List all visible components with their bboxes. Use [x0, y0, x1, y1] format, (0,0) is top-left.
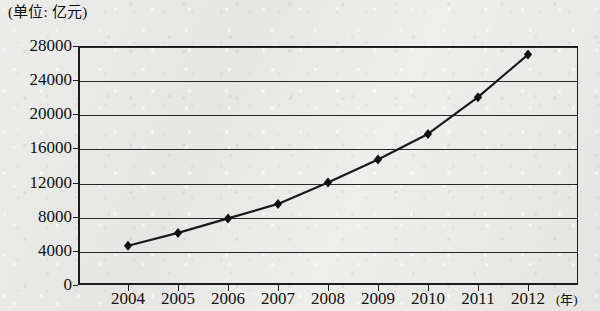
plot-area: [78, 46, 578, 285]
gridline: [80, 81, 577, 82]
y-tick-mark: [73, 148, 78, 149]
gridline: [80, 149, 577, 150]
gridline: [80, 218, 577, 219]
x-axis-unit-label: (年): [556, 292, 578, 308]
y-tick-label: 12000: [0, 174, 72, 191]
y-tick-mark: [73, 183, 78, 184]
y-tick-label: 16000: [0, 139, 72, 156]
x-tick-mark: [428, 285, 429, 291]
y-tick-mark: [73, 217, 78, 218]
y-tick-label: 0: [0, 276, 72, 293]
y-tick-label: 24000: [0, 71, 72, 88]
gridline: [80, 252, 577, 253]
y-tick-mark: [73, 46, 78, 47]
y-tick-label: 8000: [0, 208, 72, 225]
y-tick-mark: [73, 114, 78, 115]
x-tick-mark: [228, 285, 229, 291]
x-tick-mark: [528, 285, 529, 291]
x-tick-mark: [478, 285, 479, 291]
y-tick-label: 28000: [0, 37, 72, 54]
y-tick-mark: [73, 285, 78, 286]
unit-caption: (单位: 亿元): [8, 3, 88, 21]
x-tick-mark: [128, 285, 129, 291]
gridline: [80, 115, 577, 116]
x-tick-mark: [278, 285, 279, 291]
y-tick-label: 4000: [0, 242, 72, 259]
x-tick-mark: [328, 285, 329, 291]
y-tick-mark: [73, 80, 78, 81]
y-tick-mark: [73, 251, 78, 252]
x-tick-mark: [378, 285, 379, 291]
x-tick-mark: [178, 285, 179, 291]
chart-page: (单位: 亿元) 0400080001200016000200002400028…: [0, 0, 600, 311]
x-tick-label: 2012: [498, 289, 558, 309]
y-tick-label: 20000: [0, 105, 72, 122]
gridline: [80, 47, 577, 48]
gridline: [80, 184, 577, 185]
